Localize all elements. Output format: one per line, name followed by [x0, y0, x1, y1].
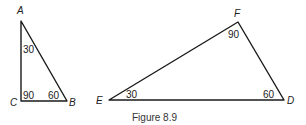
- angle-b-value: 60: [48, 90, 60, 101]
- vertex-label-a: A: [16, 5, 24, 16]
- figure-canvas: A C B 30 90 60 E F D 30 90 60 Figure 8.9: [0, 0, 306, 125]
- triangle-def: E F D 30 90 60: [96, 8, 294, 106]
- figure-caption: Figure 8.9: [132, 112, 177, 123]
- vertex-label-e: E: [96, 95, 103, 106]
- vertex-label-b: B: [69, 97, 76, 108]
- vertex-label-f: F: [234, 8, 241, 19]
- angle-e-value: 30: [126, 89, 138, 100]
- triangle-abc-outline: [21, 21, 67, 101]
- angle-c-value: 90: [23, 90, 35, 101]
- triangle-abc: A C B 30 90 60: [10, 5, 76, 108]
- vertex-label-d: D: [287, 95, 294, 106]
- angle-a-value: 30: [23, 44, 35, 55]
- angle-d-value: 60: [263, 89, 275, 100]
- angle-f-value: 90: [228, 29, 240, 40]
- vertex-label-c: C: [10, 97, 18, 108]
